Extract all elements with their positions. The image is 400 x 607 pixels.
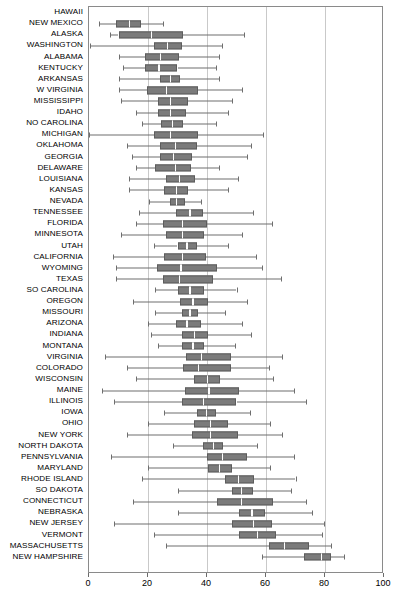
upper-whisker-cap [306,399,307,404]
category-label: ALABAMA [44,52,83,61]
median-line [166,87,167,94]
upper-whisker-cap [272,221,273,226]
lower-whisker-cap [154,533,155,538]
box-iqr [225,476,255,483]
category-label: WYOMING [42,263,83,272]
box-iqr [154,131,198,138]
category-label: KENTUCKY [38,63,83,72]
upper-whisker [217,268,261,269]
median-line [186,320,187,327]
x-axis-tick-label: 40 [201,578,211,589]
median-line [210,431,211,438]
upper-whisker [206,257,256,258]
box-iqr [182,331,209,338]
upper-whisker [188,190,228,191]
category-label: MISSISSIPPI [34,96,83,105]
median-line [213,443,214,450]
category-label: DELAWARE [37,163,83,172]
box-iqr [166,231,204,238]
upper-whisker-cap [228,244,229,249]
box-iqr [186,354,230,361]
upper-whisker-cap [257,444,258,449]
box-plot-row [89,341,382,352]
upper-whisker [204,346,235,347]
median-line [222,454,223,461]
median-line [172,120,173,127]
upper-whisker-cap [291,488,292,493]
x-axis-tick [88,573,89,577]
lower-whisker-cap [133,499,134,504]
lower-whisker-cap [142,477,143,482]
upper-whisker [228,423,271,424]
median-line [175,165,176,172]
category-label: W VIRGINIA [37,85,83,94]
box-plot-row [89,318,382,329]
lower-whisker-cap [155,310,156,315]
upper-whisker [180,79,218,80]
lower-whisker [133,501,217,502]
upper-whisker-cap [273,377,274,382]
category-label: GEORGIA [45,152,83,161]
median-line [176,198,177,205]
lower-whisker-cap [154,244,155,249]
median-line [180,265,181,272]
upper-whisker [198,90,242,91]
box-plot-row [89,352,382,363]
box-plot-row [89,418,382,429]
lower-whisker [102,390,185,391]
upper-whisker-cap [294,455,295,460]
median-line [167,42,168,49]
box-iqr [182,398,237,405]
lower-whisker [113,257,165,258]
lower-whisker [151,334,182,335]
lower-whisker-cap [102,388,103,393]
lower-whisker [114,523,232,524]
median-line [198,365,199,372]
median-line [210,420,211,427]
lower-whisker [158,346,182,347]
lower-whisker-cap [133,299,134,304]
box-plot-row [89,40,382,51]
upper-whisker [204,234,242,235]
lower-whisker [148,423,194,424]
x-axis-tick [147,573,148,577]
lower-whisker [149,201,170,202]
box-iqr [217,498,273,505]
x-axis-tick [383,573,384,577]
upper-whisker-cap [242,232,243,237]
category-label: CONNECTICUT [23,496,83,505]
lower-whisker [148,468,208,469]
lower-whisker [178,512,240,513]
median-line [176,187,177,194]
upper-whisker-cap [247,299,248,304]
upper-whisker [213,279,281,280]
upper-whisker [141,23,163,24]
upper-whisker-cap [222,43,223,48]
lower-whisker [148,323,176,324]
upper-whisker-cap [250,410,251,415]
lower-whisker [129,190,164,191]
lower-whisker-cap [90,43,91,48]
box-plot-row [89,363,382,374]
lower-whisker [121,234,165,235]
median-line [238,476,239,483]
box-plot-row [89,541,382,552]
lower-whisker-cap [158,344,159,349]
category-label-column: HAWAIINEW MEXICOALASKAWASHINGTONALABAMAK… [0,6,86,573]
box-iqr [164,254,205,261]
upper-whisker [182,45,222,46]
category-label: WISCONSIN [35,374,83,383]
category-label: HAWAII [54,7,83,16]
x-axis-tick-label: 80 [319,578,329,589]
box-iqr [192,431,238,438]
lower-whisker-cap [114,399,115,404]
lower-whisker [127,368,183,369]
lower-whisker [116,268,157,269]
category-label: PENNSYLVANIA [21,452,83,461]
box-iqr [185,387,240,394]
box-plot-row [89,274,382,285]
category-label: IDAHO [57,107,83,116]
lower-whisker [121,101,158,102]
lower-whisker-cap [110,32,111,37]
lower-whisker-cap [178,488,179,493]
